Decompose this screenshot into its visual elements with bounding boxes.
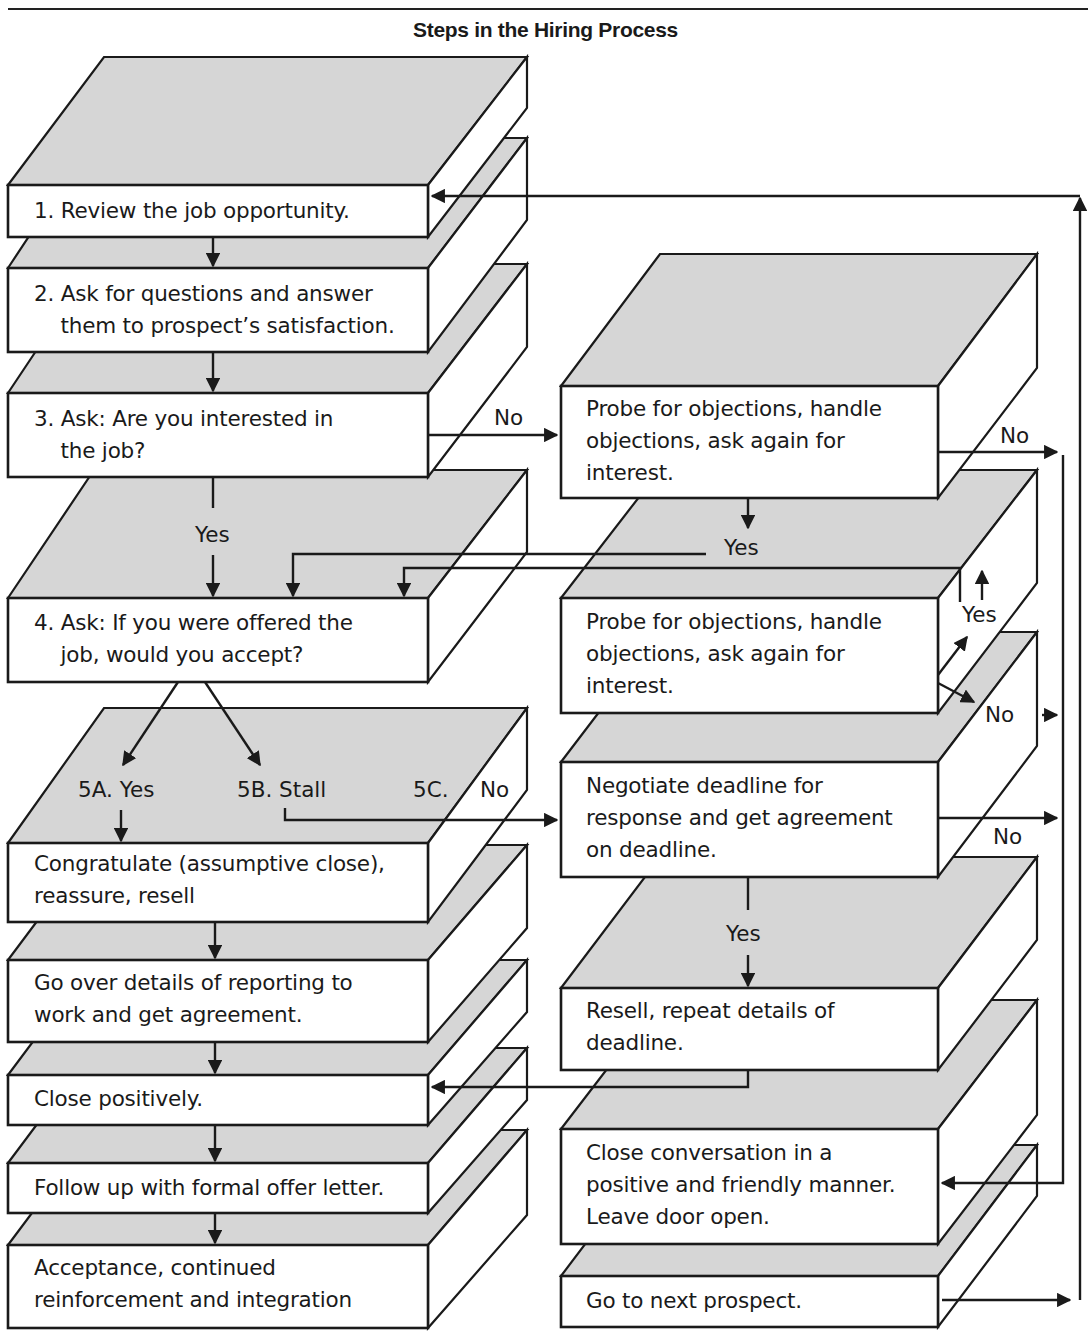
step-probe-objections-2: Probe for objections, handle objections,… bbox=[586, 606, 882, 702]
edge-label-negotiate-yes: Yes bbox=[726, 922, 761, 946]
step-probe-objections-1: Probe for objections, handle objections,… bbox=[586, 393, 882, 489]
step-ask-questions: 2. Ask for questions and answer them to … bbox=[34, 278, 395, 342]
edge-label-probe2-yes: Yes bbox=[962, 603, 997, 627]
edge-label-5c-no: No bbox=[480, 778, 509, 802]
step-next-prospect: Go to next prospect. bbox=[586, 1285, 802, 1317]
step-resell-deadline: Resell, repeat details of deadline. bbox=[586, 995, 834, 1059]
edge-label-probe2-no: No bbox=[985, 703, 1014, 727]
step-follow-up: Follow up with formal offer letter. bbox=[34, 1172, 384, 1204]
edge-label-probe1-no: No bbox=[1000, 424, 1029, 448]
step-ask-accept: 4. Ask: If you were offered the job, wou… bbox=[34, 607, 353, 671]
edge-label-5b-stall: 5B. Stall bbox=[237, 778, 326, 802]
edge-label-step3-yes: Yes bbox=[195, 523, 230, 547]
edge-label-5c: 5C. bbox=[413, 778, 449, 802]
step-acceptance: Acceptance, continued reinforcement and … bbox=[34, 1252, 352, 1316]
step-close-positively: Close positively. bbox=[34, 1083, 203, 1115]
edge-label-step3-no: No bbox=[494, 406, 523, 430]
step-go-over-details: Go over details of reporting to work and… bbox=[34, 967, 353, 1031]
left-stack bbox=[8, 57, 527, 1328]
edge-label-negotiate-no: No bbox=[993, 825, 1022, 849]
step-negotiate-deadline: Negotiate deadline for response and get … bbox=[586, 770, 893, 866]
edge-label-probe1-yes: Yes bbox=[724, 536, 759, 560]
step-congratulate: Congratulate (assumptive close), reassur… bbox=[34, 848, 385, 912]
step-review-job: 1. Review the job opportunity. bbox=[34, 195, 350, 227]
step-ask-interest: 3. Ask: Are you interested in the job? bbox=[34, 403, 333, 467]
edge-label-5a-yes: 5A. Yes bbox=[78, 778, 154, 802]
step-close-conversation: Close conversation in a positive and fri… bbox=[586, 1137, 895, 1233]
